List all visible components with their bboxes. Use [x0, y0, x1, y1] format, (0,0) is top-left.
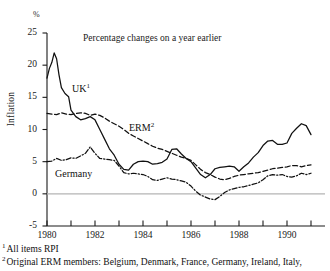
y-tick-label: 15	[11, 91, 37, 101]
x-tick-label: 1986	[171, 230, 211, 240]
inflation-chart-figure: % Inflation 2520151050-5 198019821984198…	[0, 0, 330, 271]
footnote-2: 2Original ERM members: Belgium, Denmark,…	[2, 256, 330, 269]
y-tick-label: 25	[11, 27, 37, 37]
footnote-1-text: All items RPI	[7, 244, 59, 254]
x-tick-label: 1988	[219, 230, 259, 240]
x-tick-label: 1984	[123, 230, 163, 240]
axis-layer	[43, 33, 326, 226]
series-label-erm: ERM2	[129, 122, 154, 133]
x-tick-label: 1982	[75, 230, 115, 240]
series-label-germany-text: Germany	[55, 168, 92, 179]
y-tick-label: 10	[11, 124, 37, 134]
footnotes-block: 1All items RPI 2Original ERM members: Be…	[2, 243, 330, 269]
x-tick-label: 1980	[27, 230, 67, 240]
series-label-germany: Germany	[55, 168, 92, 179]
x-tick-label: 1990	[267, 230, 307, 240]
footnote-1: 1All items RPI	[2, 243, 330, 256]
y-tick-label: -5	[11, 220, 37, 230]
series-label-uk: UK1	[72, 83, 90, 94]
y-tick-label: 20	[11, 59, 37, 69]
series-label-uk-text: UK	[72, 83, 86, 94]
y-tick-label: 0	[11, 188, 37, 198]
footnote-2-marker: 2	[2, 256, 6, 263]
footnote-2-text: Original ERM members: Belgium, Denmark, …	[7, 257, 302, 267]
series-label-uk-superscript: 1	[86, 82, 90, 90]
chart-annotation-title: Percentage changes on a year earlier	[83, 33, 221, 43]
y-tick-label: 5	[11, 156, 37, 166]
series-label-erm-text: ERM	[129, 122, 151, 133]
footnote-1-marker: 1	[2, 243, 6, 250]
series-label-erm-superscript: 2	[151, 121, 155, 129]
series-line-uk	[47, 53, 311, 178]
y-axis-unit-label: %	[33, 10, 40, 20]
